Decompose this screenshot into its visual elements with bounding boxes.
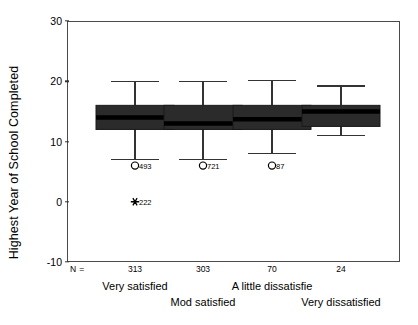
n-row-label: N = <box>70 264 85 274</box>
y-tick-10: 10 <box>36 142 62 143</box>
y-tick-20: 20 <box>36 81 62 82</box>
n-value-1: 313 <box>128 264 142 274</box>
y-tick-30: 30 <box>36 21 62 22</box>
outlier-label: 222 <box>139 198 152 207</box>
category-label-3: A little dissatisfie <box>232 280 313 292</box>
y-tick-label: 0 <box>36 196 62 208</box>
outlier-marker-star <box>131 198 139 205</box>
y-tick--10: -10 <box>36 262 62 263</box>
outlier-marker-circle <box>268 162 275 169</box>
box-plot-figure: Highest Year of School Completed 3020100… <box>0 0 418 325</box>
outlier-marker-circle <box>131 162 138 169</box>
y-tick-label: 10 <box>36 136 62 148</box>
y-tick-label: 20 <box>36 75 62 87</box>
box-1 <box>96 81 174 205</box>
box-body <box>164 105 242 129</box>
outlier-label: 493 <box>139 162 152 171</box>
category-label-1: Very satisfied <box>102 280 167 292</box>
box-2 <box>164 81 242 169</box>
category-label-2: Mod satisfied <box>171 296 236 308</box>
n-value-3: 70 <box>267 264 276 274</box>
y-tick-0: 0 <box>36 202 62 203</box>
y-tick-label: 30 <box>36 15 62 27</box>
category-label-4: Very dissatisfied <box>301 296 380 308</box>
box-body <box>302 105 380 126</box>
box-4 <box>302 86 380 135</box>
outlier-marker-circle <box>199 162 206 169</box>
box-plot-series <box>67 21 400 262</box>
y-axis-title: Highest Year of School Completed <box>2 0 26 325</box>
box-3 <box>233 81 311 170</box>
n-value-2: 303 <box>196 264 210 274</box>
n-value-4: 24 <box>336 264 345 274</box>
y-tick-label: -10 <box>36 256 62 268</box>
outlier-label: 87 <box>276 162 284 171</box>
outlier-label: 721 <box>207 162 220 171</box>
